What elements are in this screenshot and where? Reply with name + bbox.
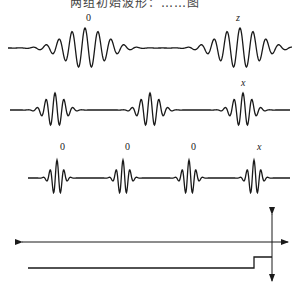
wave-row-3: 000x — [28, 141, 290, 193]
waveform-diagram: 0zx000x — [0, 0, 301, 292]
packet-label: 0 — [125, 141, 130, 152]
axes-diagram — [22, 214, 288, 281]
wave-trace — [10, 93, 290, 125]
wave-row-1: 0z — [8, 12, 292, 67]
packet-label: x — [256, 141, 262, 152]
wave-trace — [8, 28, 292, 67]
step-function-line — [28, 257, 272, 268]
wave-rows: 0zx000x — [8, 12, 292, 193]
wave-trace — [28, 160, 290, 193]
packet-label: x — [240, 77, 246, 88]
packet-label: 0 — [60, 141, 65, 152]
packet-label: z — [235, 12, 240, 23]
wave-row-2: x — [10, 77, 290, 125]
packet-label: 0 — [86, 12, 91, 23]
packet-label: 0 — [191, 141, 196, 152]
